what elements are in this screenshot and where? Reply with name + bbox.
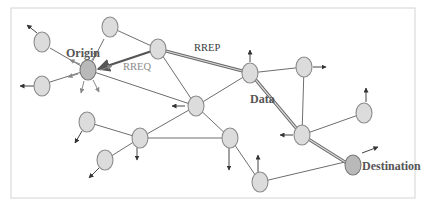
node: [102, 17, 118, 37]
node: [252, 172, 268, 192]
destination-label: Destination: [362, 159, 421, 173]
node: [150, 39, 166, 59]
data-node: [242, 63, 258, 83]
aodv-network-diagram: Origin RREQ RREP Data Destination: [0, 0, 425, 214]
node: [222, 128, 238, 148]
node: [294, 125, 310, 145]
node: [132, 128, 148, 148]
node: [34, 76, 50, 96]
origin-label: Origin: [66, 46, 100, 60]
node: [79, 112, 95, 132]
node: [34, 32, 50, 52]
node: [97, 150, 113, 170]
rreq-label: RREQ: [123, 61, 151, 72]
destination-node: [345, 155, 361, 175]
data-label: Data: [250, 92, 275, 106]
node: [188, 96, 204, 116]
origin-node: [80, 60, 96, 80]
node: [296, 57, 312, 77]
node: [356, 103, 372, 123]
rrep-label: RREP: [194, 42, 220, 53]
